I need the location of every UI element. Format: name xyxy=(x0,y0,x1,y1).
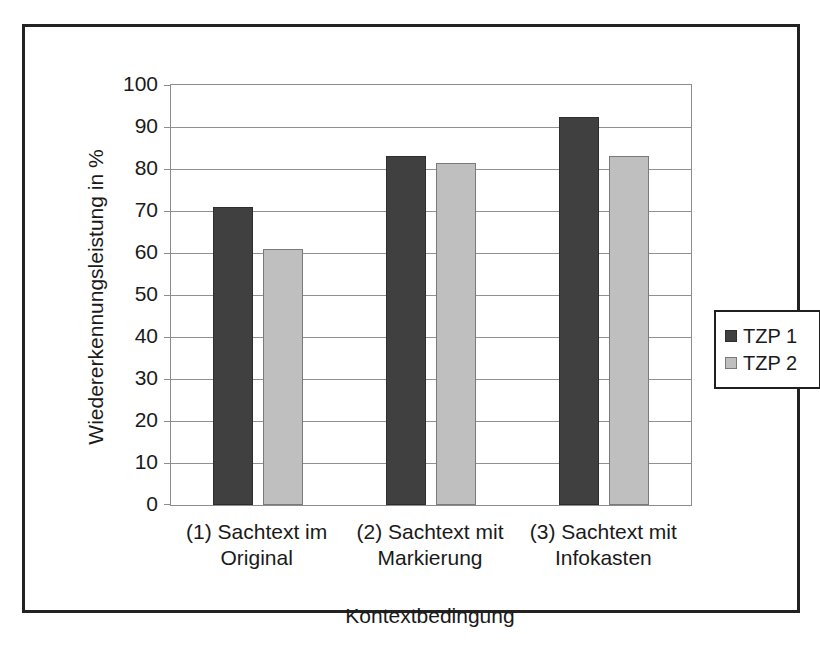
y-axis-title: Wiedererkennungsleistung in % xyxy=(84,149,108,444)
x-axis-title: Kontextbedingung xyxy=(345,604,514,628)
y-tick-mark-40 xyxy=(164,337,171,338)
y-tick-mark-50 xyxy=(164,295,171,296)
x-category-label-2: (2) Sachtext mit Markierung xyxy=(337,519,523,571)
legend-item-tzp1: TZP 1 xyxy=(725,324,819,348)
y-tick-mark-60 xyxy=(164,253,171,254)
x-axis-category-labels: (1) Sachtext im Original(2) Sachtext mit… xyxy=(170,519,690,579)
bar-tzp1-cat2 xyxy=(386,156,426,505)
y-tick-mark-90 xyxy=(164,127,171,128)
figure-border: 0102030405060708090100 Wiedererkennungsl… xyxy=(22,24,800,613)
y-tick-mark-80 xyxy=(164,169,171,170)
y-tick-label-90: 90 xyxy=(83,114,158,138)
y-tick-mark-10 xyxy=(164,463,171,464)
bar-tzp1-cat1 xyxy=(213,207,253,505)
scanned-bar-chart-page: 0102030405060708090100 Wiedererkennungsl… xyxy=(0,0,820,646)
y-tick-label-0: 0 xyxy=(83,492,158,516)
legend-label: TZP 1 xyxy=(743,325,797,348)
legend-item-tzp2: TZP 2 xyxy=(725,351,819,375)
bar-tzp1-cat3 xyxy=(559,117,599,506)
legend-swatch-icon xyxy=(725,357,737,369)
legend-swatch-icon xyxy=(725,330,737,342)
x-category-label-3: (3) Sachtext mit Infokasten xyxy=(510,519,696,571)
y-tick-mark-30 xyxy=(164,379,171,380)
bar-tzp2-cat3 xyxy=(609,156,649,505)
gridline-y-90 xyxy=(171,127,691,128)
y-tick-mark-100 xyxy=(164,85,171,86)
legend-box: TZP 1TZP 2 xyxy=(714,310,820,389)
bar-tzp2-cat2 xyxy=(436,163,476,505)
y-tick-label-10: 10 xyxy=(83,450,158,474)
y-tick-mark-70 xyxy=(164,211,171,212)
plot-area xyxy=(170,84,692,506)
y-tick-mark-0 xyxy=(164,504,171,505)
legend-label: TZP 2 xyxy=(743,352,797,375)
x-category-label-1: (1) Sachtext im Original xyxy=(164,519,350,571)
bar-tzp2-cat1 xyxy=(263,249,303,505)
y-tick-mark-20 xyxy=(164,421,171,422)
y-tick-label-100: 100 xyxy=(83,72,158,96)
